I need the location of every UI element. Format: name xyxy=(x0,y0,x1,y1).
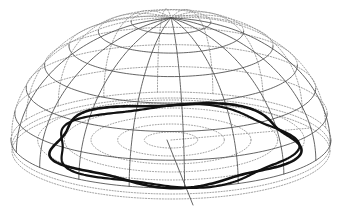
meridian-front xyxy=(16,18,171,152)
dome-wireframe-svg xyxy=(0,0,343,214)
meridian-front xyxy=(79,18,171,179)
dome-front-grid xyxy=(11,18,331,205)
latitude-circle-back xyxy=(26,45,315,88)
hemisphere-diagram xyxy=(0,0,343,214)
base-spoke xyxy=(167,140,193,205)
latitude-circle-back xyxy=(45,27,298,65)
wavy-closed-curve xyxy=(49,103,301,188)
latitude-circle-back xyxy=(69,15,273,46)
dome-back-grid xyxy=(11,9,331,199)
latitude-circle-back xyxy=(98,10,243,32)
latitude-circle-back xyxy=(131,10,211,22)
meridian-back xyxy=(171,12,263,101)
meridian-front xyxy=(129,18,171,186)
